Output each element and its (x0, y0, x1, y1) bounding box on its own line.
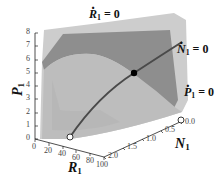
z-axis-ticks (35, 33, 38, 139)
x-tick: 40 (58, 150, 66, 158)
z-tick: 1 (26, 121, 30, 129)
y-tick: 0.5 (165, 126, 175, 134)
y-tick: 1.5 (127, 143, 137, 151)
z-tick: 0 (26, 134, 30, 142)
boundary-equilibrium-point-2 (178, 117, 184, 123)
x-axis-label: R1 (68, 161, 82, 176)
interior-equilibrium-point (131, 70, 137, 76)
x-tick: 20 (44, 147, 52, 155)
y-axis-label: N1 (175, 137, 190, 152)
p1-nullcline-label: P1 = 0 (184, 86, 214, 100)
x-tick: 100 (96, 161, 108, 169)
z-tick: 8 (26, 28, 30, 36)
z-tick: 4 (26, 81, 30, 89)
z-tick: 5 (26, 68, 30, 76)
y-tick: 1.0 (146, 135, 156, 143)
z-tick: 6 (26, 55, 30, 63)
n1-nullcline-label: N1 = 0 (177, 43, 208, 57)
y-tick: 0.0 (185, 118, 195, 126)
y-tick: 2.0 (108, 152, 118, 160)
z-axis-label: P1 (11, 83, 26, 96)
x-tick: 0 (32, 143, 36, 151)
z-tick: 7 (26, 41, 30, 49)
r1-nullcline-label: R1 = 0 (89, 8, 120, 22)
x-tick: 80 (86, 157, 94, 165)
z-tick: 2 (26, 108, 30, 116)
z-tick: 3 (26, 94, 30, 102)
boundary-equilibrium-point-1 (67, 134, 73, 140)
